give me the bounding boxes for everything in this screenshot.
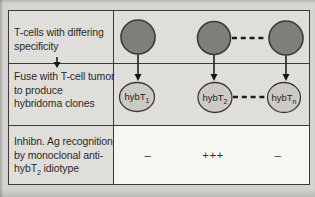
row-divider-1 [9,63,309,64]
figure-page: T-cells with differing specificity Fuse … [0,0,315,197]
label-line: Fuse with T-cell tumor [14,70,111,84]
node-label-subscript: 2 [224,98,228,105]
node-label-text: hybT [202,92,223,103]
label-line: by monoclonal anti- [14,149,111,163]
row2-label: Fuse with T-cell tumor to produce hybrid… [14,70,111,111]
label-line: specificity [14,40,111,54]
row1-label: T-cells with differing specificity [14,26,111,53]
hybridoma-label-1: hybT1 [107,91,167,103]
row-divider-2 [9,125,309,126]
hybridoma-label-2: hybT2 [185,92,245,104]
node-label-subscript: 1 [146,97,150,104]
node-label-text: hybT [271,92,292,103]
node-label-text: hybT [124,91,145,102]
label-line: Inhibn. Ag recognition [14,135,111,149]
row3-label: Inhibn. Ag recognition by monoclonal ant… [14,135,111,176]
inhibition-value-n: – [256,149,300,162]
label-line: T-cells with differing [14,26,111,40]
node-label-subscript: n [293,98,297,105]
label-text: hybT [14,162,37,174]
label-line: to produce [14,84,111,98]
label-text: idiotype [41,162,79,174]
hybridoma-label-n: hybTn [254,92,314,104]
inhibition-value-2: +++ [191,149,235,162]
label-line: hybridoma clones [14,97,111,111]
inhibition-value-1: – [126,149,170,162]
label-line: hybT2 idiotype [14,162,111,176]
